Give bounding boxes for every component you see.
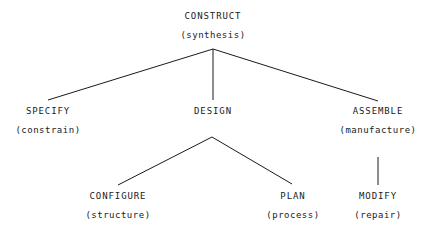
node-label-specify: SPECIFY xyxy=(15,105,80,118)
edge-design-to-plan xyxy=(212,137,292,184)
node-subtitle-assemble: (manufacture) xyxy=(340,124,417,137)
node-specify[interactable]: SPECIFY(constrain) xyxy=(15,105,80,137)
hierarchy-diagram: CONSTRUCT(synthesis)SPECIFY(constrain)DE… xyxy=(0,0,433,242)
node-label-configure: CONFIGURE xyxy=(85,190,150,203)
node-subtitle-configure: (structure) xyxy=(85,209,150,222)
node-plan[interactable]: PLAN(process) xyxy=(266,190,319,222)
node-label-plan: PLAN xyxy=(266,190,319,203)
node-label-modify: MODIFY xyxy=(354,190,401,203)
node-modify[interactable]: MODIFY(repair) xyxy=(354,190,401,222)
node-design[interactable]: DESIGN xyxy=(194,105,232,118)
edge-construct-to-assemble xyxy=(213,49,378,101)
node-subtitle-specify: (constrain) xyxy=(15,124,80,137)
node-label-design: DESIGN xyxy=(194,105,232,118)
node-construct[interactable]: CONSTRUCT(synthesis) xyxy=(180,10,245,42)
node-subtitle-modify: (repair) xyxy=(354,209,401,222)
node-subtitle-construct: (synthesis) xyxy=(180,29,245,42)
edge-construct-to-specify xyxy=(48,49,213,100)
node-assemble[interactable]: ASSEMBLE(manufacture) xyxy=(340,105,417,137)
edge-design-to-configure xyxy=(118,137,212,185)
node-configure[interactable]: CONFIGURE(structure) xyxy=(85,190,150,222)
node-label-assemble: ASSEMBLE xyxy=(340,105,417,118)
node-subtitle-plan: (process) xyxy=(266,209,319,222)
node-label-construct: CONSTRUCT xyxy=(180,10,245,23)
